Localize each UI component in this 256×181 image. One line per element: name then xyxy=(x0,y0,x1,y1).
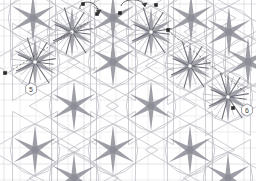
handle-marker[interactable] xyxy=(166,28,170,32)
badge-label: 6 xyxy=(245,107,249,114)
handle-marker[interactable] xyxy=(81,2,85,6)
handle-marker[interactable] xyxy=(95,12,99,16)
vertex-badge[interactable]: 5 xyxy=(26,83,37,95)
handle-marker[interactable] xyxy=(118,11,122,15)
handle-marker[interactable] xyxy=(154,3,158,7)
badge-label: 5 xyxy=(29,86,33,93)
vertex-badge[interactable]: 6 xyxy=(242,104,253,116)
handle-marker[interactable] xyxy=(3,71,7,75)
handle-marker[interactable] xyxy=(231,106,235,110)
canvas-svg[interactable]: 56 xyxy=(0,0,256,181)
pattern-canvas[interactable]: 56 xyxy=(0,0,256,181)
